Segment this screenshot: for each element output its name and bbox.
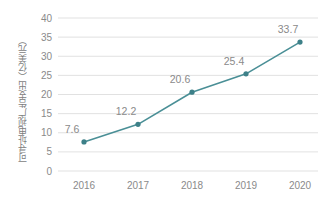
x-tick-label: 2016 [73,180,96,191]
x-tick-label: 2019 [235,180,258,191]
y-tick-label: 10 [41,127,53,138]
y-tick-labels-group: 0510152025303540 [41,13,53,177]
x-tick-label: 2018 [181,180,204,191]
y-tick-label: 25 [41,70,53,81]
y-tick-label: 40 [41,13,53,24]
data-point-label: 33.7 [278,23,299,35]
data-point-marker [189,90,194,95]
y-tick-label: 15 [41,108,53,119]
markers-group [81,39,302,144]
data-point-marker [297,39,302,44]
x-tick-label: 2020 [289,180,312,191]
y-tick-label: 5 [46,146,52,157]
y-tick-label: 0 [46,166,52,177]
y-tick-label: 35 [41,32,53,43]
line-chart-svg: 0510152025303540 20162017201820192020 7.… [34,10,320,207]
data-point-marker [135,122,140,127]
data-point-label: 12.2 [116,105,137,117]
x-tick-labels-group: 20162017201820192020 [73,180,312,191]
data-point-marker [243,71,248,76]
data-point-label: 7.6 [65,123,80,135]
data-point-marker [81,139,86,144]
y-axis-label: 可寻址电视广告支出（亿美元） [10,14,34,184]
x-tick-label: 2017 [127,180,150,191]
y-tick-label: 20 [41,89,53,100]
chart-container: 可寻址电视广告支出（亿美元） 0510152025303540 20162017… [0,0,320,207]
y-tick-label: 30 [41,51,53,62]
data-point-label: 20.6 [170,73,191,85]
y-axis-label-text: 可寻址电视广告支出（亿美元） [18,36,27,162]
data-labels-group: 7.612.220.625.433.7 [65,23,299,135]
plot-area: 0510152025303540 20162017201820192020 7.… [34,10,320,207]
data-point-label: 25.4 [224,55,245,67]
